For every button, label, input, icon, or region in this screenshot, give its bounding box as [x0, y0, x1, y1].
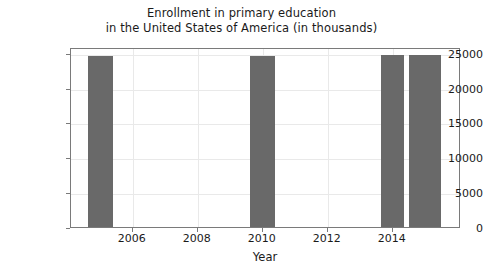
x-axis-tick-label: 2012	[297, 233, 357, 245]
x-axis-tick-label: 2008	[167, 233, 227, 245]
bar	[409, 55, 441, 227]
y-axis-tick-label: 20000	[427, 83, 483, 94]
y-axis-tick-mark	[66, 228, 70, 229]
y-axis-tick-label: 25000	[427, 48, 483, 59]
bar	[88, 56, 113, 227]
y-axis-tick-mark	[66, 89, 70, 90]
bar	[250, 56, 275, 227]
x-axis-tick-label: 2010	[232, 233, 292, 245]
chart-title: Enrollment in primary education in the U…	[0, 6, 483, 36]
y-axis-tick-mark	[66, 123, 70, 124]
gridline-vertical	[198, 49, 199, 227]
x-axis-tick-mark	[197, 228, 198, 232]
y-axis-tick-label: 15000	[427, 118, 483, 129]
y-axis-tick-mark	[66, 193, 70, 194]
bar	[381, 55, 404, 227]
x-axis-tick-mark	[392, 228, 393, 232]
y-axis-tick-label: 0	[427, 223, 483, 234]
x-axis-tick-mark	[262, 228, 263, 232]
plot-area	[70, 48, 460, 228]
x-axis-tick-label: 2006	[102, 233, 162, 245]
y-axis-tick-mark	[66, 158, 70, 159]
y-axis-tick-label: 10000	[427, 153, 483, 164]
gridline-vertical	[133, 49, 134, 227]
y-axis-tick-label: 5000	[427, 188, 483, 199]
chart-figure: Enrollment in primary education in the U…	[0, 0, 483, 268]
y-axis-tick-mark	[66, 54, 70, 55]
x-axis-tick-label: 2014	[362, 233, 422, 245]
gridline-vertical	[328, 49, 329, 227]
x-axis-tick-mark	[327, 228, 328, 232]
x-axis-tick-mark	[132, 228, 133, 232]
x-axis-label: Year	[70, 250, 460, 264]
